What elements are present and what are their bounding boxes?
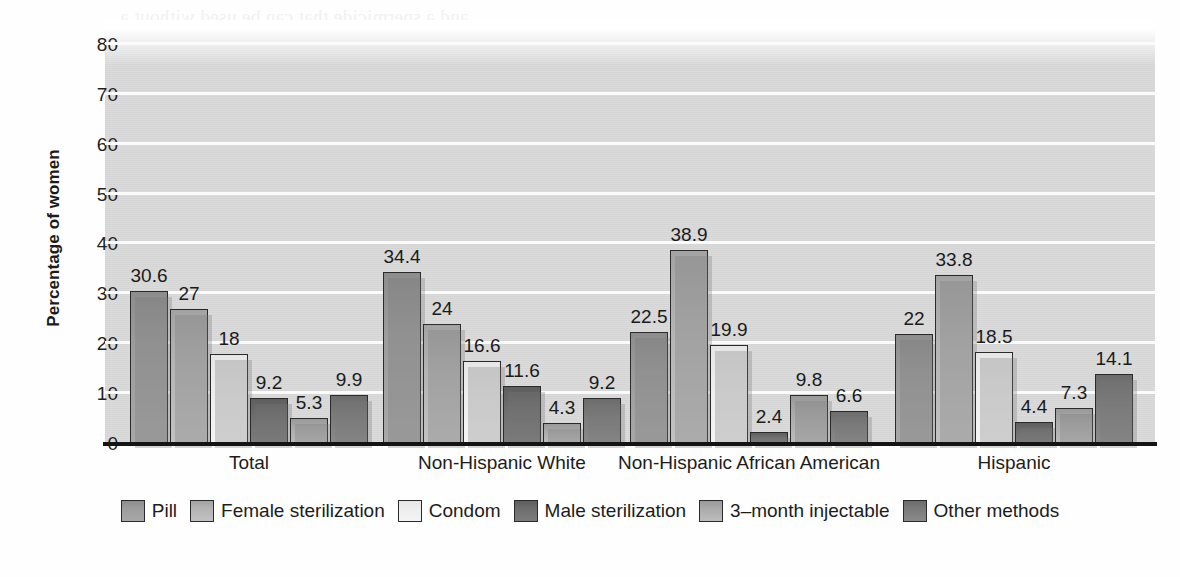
legend-swatch-icon (121, 500, 145, 522)
bar[interactable] (895, 334, 933, 444)
bar-column: 27 (170, 20, 208, 444)
bar-column: 33.8 (935, 20, 973, 444)
bar-column: 38.9 (670, 20, 708, 444)
gridline-30 (105, 291, 1155, 294)
legend-label: Female sterilization (221, 500, 385, 522)
bar-chart: and a spermicide that can be used withou… (0, 0, 1180, 577)
bar[interactable] (710, 345, 748, 444)
legend-label: Pill (152, 500, 177, 522)
bar-value-label: 6.6 (817, 385, 881, 407)
bar-value-label: 16.6 (450, 335, 514, 357)
legend-swatch-icon (903, 500, 927, 522)
bar-value-label: 14.1 (1082, 348, 1146, 370)
x-group-label: Total (229, 452, 269, 474)
bar-column: 9.9 (330, 20, 368, 444)
chart-legend: PillFemale sterilizationCondomMale steri… (0, 500, 1180, 522)
bar[interactable] (830, 411, 868, 444)
gridline-80 (105, 42, 1155, 45)
bar-value-label: 9.9 (317, 369, 381, 391)
bar[interactable] (935, 275, 973, 444)
bar-group: 34.42416.611.64.39.2 (383, 20, 621, 444)
bar[interactable] (210, 354, 248, 444)
bar[interactable] (290, 418, 328, 444)
legend-item[interactable]: Male sterilization (514, 500, 687, 522)
bar-value-label: 2.4 (737, 406, 801, 428)
x-group-label: Hispanic (978, 452, 1051, 474)
gridline-40 (105, 241, 1155, 244)
legend-label: Other methods (934, 500, 1060, 522)
bar-column: 24 (423, 20, 461, 444)
bar-value-label: 11.6 (490, 360, 554, 382)
bar-column: 9.8 (790, 20, 828, 444)
legend-swatch-icon (190, 500, 214, 522)
legend-label: Male sterilization (545, 500, 687, 522)
bar[interactable] (130, 291, 168, 444)
gridline-50 (105, 192, 1155, 195)
legend-item[interactable]: Condom (398, 500, 501, 522)
legend-swatch-icon (514, 500, 538, 522)
bar-column: 18.5 (975, 20, 1013, 444)
bar-column: 22 (895, 20, 933, 444)
bar-column: 9.2 (250, 20, 288, 444)
legend-label: 3–month injectable (730, 500, 890, 522)
x-axis-line (103, 442, 1157, 446)
bar-value-label: 22 (882, 308, 946, 330)
legend-item[interactable]: Other methods (903, 500, 1060, 522)
bar-column: 14.1 (1095, 20, 1133, 444)
bar-column: 4.4 (1015, 20, 1053, 444)
bar-group: 30.627189.25.39.9 (130, 20, 368, 444)
legend-label: Condom (429, 500, 501, 522)
gridline-70 (105, 92, 1155, 95)
bar-column: 7.3 (1055, 20, 1093, 444)
bar-value-label: 34.4 (370, 246, 434, 268)
bar-value-label: 22.5 (617, 306, 681, 328)
bar-value-label: 27 (157, 283, 221, 305)
legend-item[interactable]: Female sterilization (190, 500, 385, 522)
bar-column: 34.4 (383, 20, 421, 444)
bar[interactable] (670, 250, 708, 444)
gridline-60 (105, 142, 1155, 145)
legend-item[interactable]: Pill (121, 500, 177, 522)
bar-value-label: 5.3 (277, 392, 341, 414)
bar-value-label: 4.3 (530, 397, 594, 419)
bar-group: 22.538.919.92.49.86.6 (630, 20, 868, 444)
bar-column: 9.2 (583, 20, 621, 444)
bar-value-label: 38.9 (657, 224, 721, 246)
bar-value-label: 7.3 (1042, 382, 1106, 404)
bar-value-label: 18.5 (962, 326, 1026, 348)
bar-value-label: 18 (197, 328, 261, 350)
bar-value-label: 19.9 (697, 319, 761, 341)
x-group-label: Non-Hispanic African American (618, 452, 880, 474)
bar-column: 11.6 (503, 20, 541, 444)
bar-value-label: 33.8 (922, 249, 986, 271)
bar[interactable] (543, 423, 581, 444)
legend-item[interactable]: 3–month injectable (699, 500, 890, 522)
x-group-label: Non-Hispanic White (418, 452, 586, 474)
bar-value-label: 9.2 (570, 372, 634, 394)
bar-group: 2233.818.54.47.314.1 (895, 20, 1133, 444)
plot-area: 30.627189.25.39.934.42416.611.64.39.222.… (105, 20, 1155, 444)
bar[interactable] (630, 332, 668, 444)
bar[interactable] (1015, 422, 1053, 444)
legend-swatch-icon (699, 500, 723, 522)
bar-value-label: 24 (410, 298, 474, 320)
legend-swatch-icon (398, 500, 422, 522)
bar-column: 30.6 (130, 20, 168, 444)
